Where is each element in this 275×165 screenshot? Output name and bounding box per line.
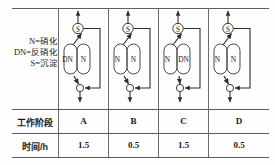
feed-to-settler-arrow-d (223, 34, 232, 46)
legend-block: N=硝化 DN=反硝化 S=沉淀 (12, 36, 58, 69)
time-value-a: 1.5 (59, 140, 108, 150)
table-bottom-border (12, 157, 269, 158)
time-value-d: 0.5 (209, 140, 269, 150)
settler-label-c: S (176, 26, 180, 34)
phase-value-c: C (159, 116, 208, 126)
settler-label-b: S (126, 26, 130, 34)
tank-to-junction-arrow-d (224, 76, 229, 84)
tank-left-label-a: DN (62, 55, 73, 64)
tank-right-label-d: N (231, 55, 237, 64)
tank-right-label-b: N (131, 55, 137, 64)
junction-circle-c (176, 84, 183, 91)
tank-right-label-c: DN (178, 55, 189, 64)
table-rule-below-phase (12, 133, 269, 134)
feed-to-settler-arrow-b (123, 34, 132, 46)
time-value-b: 0.5 (109, 140, 158, 150)
settler-label-a: S (76, 26, 80, 34)
diagram-cell-b: S N N (109, 8, 159, 108)
diagram-cell-c: S N DN (159, 8, 209, 108)
junction-circle-a (76, 84, 83, 91)
legend-line-denitrification: DN=反硝化 (12, 47, 58, 58)
feed-to-settler-arrow-a (73, 34, 82, 46)
junction-circle-b (126, 84, 133, 91)
diagram-cell-d: S N N (209, 8, 259, 108)
legend-line-nitrification: N=硝化 (12, 36, 58, 47)
tank-to-junction-arrow-a (74, 76, 79, 84)
phase-value-d: D (209, 116, 269, 126)
tank-left-label-b: N (115, 55, 121, 64)
feed-to-settler-arrow-c (173, 34, 182, 46)
row-label-working-phase: 工作阶段 (12, 116, 58, 129)
row-label-time-hours: 时间/h (12, 140, 58, 153)
diagram-cell-a: S DN N (59, 8, 109, 108)
settler-label-d: S (226, 26, 230, 34)
phase-value-b: B (109, 116, 158, 126)
tank-to-junction-arrow-b (124, 76, 129, 84)
process-phase-table: N=硝化 DN=反硝化 S=沉淀 S DN N (0, 0, 275, 165)
junction-circle-d (226, 84, 233, 91)
tank-left-label-c: N (165, 55, 171, 64)
time-value-c: 1.5 (159, 140, 208, 150)
tank-left-label-d: N (215, 55, 221, 64)
legend-line-settling: S=沉淀 (12, 58, 58, 69)
phase-value-a: A (59, 116, 108, 126)
tank-right-label-a: N (81, 55, 87, 64)
tank-to-junction-arrow-c (179, 76, 180, 84)
table-rule-below-diagrams (12, 109, 269, 110)
